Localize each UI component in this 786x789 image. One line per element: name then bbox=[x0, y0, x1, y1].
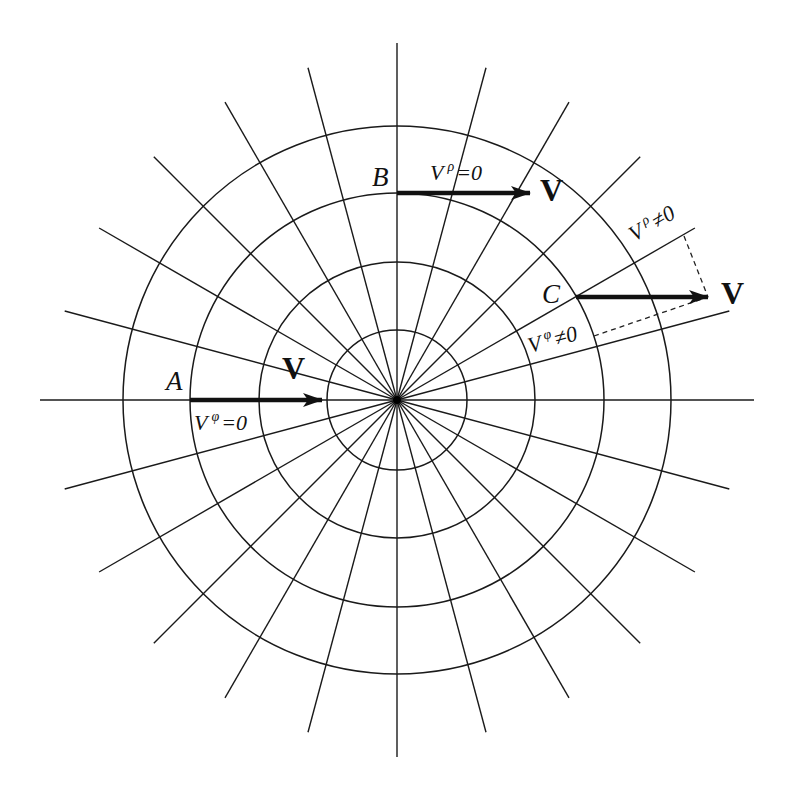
radial-line-300deg bbox=[397, 400, 569, 698]
radial-line-60deg bbox=[397, 102, 569, 400]
radial-line-210deg bbox=[99, 400, 397, 572]
radial-line-135deg bbox=[154, 157, 397, 400]
a-comp-base: V bbox=[194, 410, 210, 435]
vector-label-b: V bbox=[540, 172, 563, 208]
origin-point bbox=[393, 396, 401, 404]
rho-projection-dashed bbox=[684, 236, 708, 297]
radial-line-165deg bbox=[65, 311, 397, 400]
b-comp-sup: ρ bbox=[446, 159, 454, 174]
vector-label-a: V bbox=[282, 350, 305, 386]
radial-line-105deg bbox=[308, 68, 397, 400]
c-phi-rest: ≠0 bbox=[551, 321, 580, 351]
a-comp-rest: =0 bbox=[221, 410, 247, 435]
radial-line-75deg bbox=[397, 68, 486, 400]
radial-line-225deg bbox=[154, 400, 397, 643]
point-label-c: C bbox=[542, 279, 561, 309]
radial-line-345deg bbox=[397, 400, 729, 489]
b-comp-rest: =0 bbox=[456, 160, 482, 185]
phi-projection-dashed bbox=[594, 297, 708, 336]
radial-line-285deg bbox=[397, 400, 486, 732]
vector-label-c: V bbox=[721, 275, 744, 311]
a-phi-component-label: Vφ=0 bbox=[194, 409, 247, 435]
radial-line-330deg bbox=[397, 400, 695, 572]
b-rho-component-label: Vρ=0 bbox=[430, 159, 482, 185]
point-label-a: A bbox=[164, 366, 183, 396]
point-label-b: B bbox=[372, 162, 389, 192]
c-rho-rest: ≠0 bbox=[647, 200, 679, 233]
radial-line-120deg bbox=[225, 102, 397, 400]
radial-line-150deg bbox=[99, 228, 397, 400]
a-comp-sup: φ bbox=[211, 409, 219, 424]
radial-line-30deg bbox=[397, 228, 695, 400]
radial-line-315deg bbox=[397, 400, 640, 643]
b-comp-base: V bbox=[430, 160, 446, 185]
c-rho-component-label: Vρ≠0 bbox=[624, 199, 680, 246]
radial-line-255deg bbox=[308, 400, 397, 732]
c-phi-component-label: Vφ≠0 bbox=[525, 320, 580, 358]
radial-line-240deg bbox=[225, 400, 397, 698]
polar-vector-diagram: A B C V V V Vφ=0 Vρ=0 Vρ≠0 Vφ≠0 bbox=[0, 0, 786, 789]
